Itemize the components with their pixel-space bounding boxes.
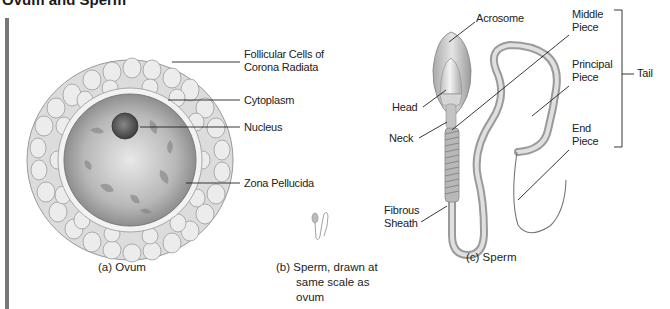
- sperm-neck: [446, 104, 456, 128]
- sperm-end-piece: [514, 152, 566, 233]
- label-nucleus: Nucleus: [244, 121, 282, 134]
- label-end-piece: End Piece: [572, 122, 599, 148]
- label-fibrous-sheath: Fibrous Sheath: [384, 204, 419, 230]
- label-follicular-cells: Follicular Cells of Corona Radiata: [244, 48, 324, 74]
- label-middle-piece: Middle Piece: [572, 8, 603, 34]
- caption-ovum: (a) Ovum: [98, 260, 146, 275]
- label-neck: Neck: [389, 132, 413, 145]
- label-head: Head: [392, 101, 418, 114]
- label-tail: Tail: [637, 67, 653, 80]
- caption-small-sperm: (b) Sperm, drawn at same scale as ovum: [276, 260, 378, 305]
- label-zona-pellucida: Zona Pellucida: [244, 177, 314, 190]
- large-sperm: [433, 32, 566, 255]
- label-acrosome: Acrosome: [476, 12, 524, 25]
- label-cytoplasm: Cytoplasm: [244, 94, 294, 107]
- label-principal-piece: Principal Piece: [572, 58, 612, 84]
- small-sperm: [312, 212, 328, 239]
- ovum-nucleus: [112, 113, 138, 139]
- caption-sperm: (c) Sperm: [466, 250, 516, 265]
